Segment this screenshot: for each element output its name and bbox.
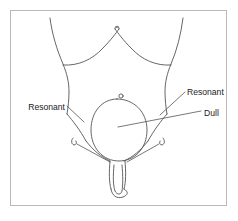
label-resonant-left: Resonant	[28, 102, 65, 112]
anatomy-group	[50, 18, 183, 198]
label-leaders-group	[67, 92, 201, 127]
costal-margin-right	[115, 29, 171, 65]
inguinal-leader-left	[77, 144, 110, 162]
xiphoid-notch	[115, 26, 119, 29]
leader-resonant-right	[160, 92, 185, 115]
leader-dull	[118, 111, 201, 127]
flank-left	[50, 18, 69, 114]
figure-root: Resonant Resonant Dull	[0, 0, 238, 221]
penis-shaft-right	[124, 161, 126, 189]
labels-group: Resonant Resonant Dull	[28, 87, 224, 118]
glans-inner-line	[113, 165, 122, 194]
glans-outline	[111, 189, 127, 198]
leader-resonant-left	[67, 106, 84, 122]
label-dull: Dull	[204, 108, 219, 118]
anatomical-illustration: Resonant Resonant Dull	[0, 0, 238, 221]
penis-shaft-left	[109, 161, 111, 189]
inguinal-mark-right	[160, 138, 165, 145]
inguinal-mark-left	[72, 138, 77, 145]
iliac-crest-left	[67, 114, 86, 141]
umbilicus	[119, 94, 123, 98]
flank-right	[165, 18, 183, 114]
costal-margin-left	[63, 29, 119, 65]
label-resonant-right: Resonant	[187, 87, 224, 97]
